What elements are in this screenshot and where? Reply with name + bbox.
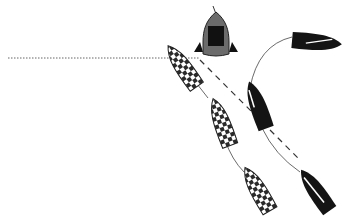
- black-boat-1: [291, 32, 342, 53]
- flag-right-icon: [229, 42, 238, 52]
- checkered-boat-3: [238, 163, 277, 215]
- diagram-canvas: [0, 0, 354, 221]
- sailing-diagram: [0, 0, 354, 221]
- black-boat-3: [294, 165, 336, 216]
- black-boat-2: [241, 79, 274, 132]
- committee-boat: [194, 6, 238, 56]
- flag-left-icon: [194, 42, 203, 52]
- checkered-boat-2: [205, 96, 238, 149]
